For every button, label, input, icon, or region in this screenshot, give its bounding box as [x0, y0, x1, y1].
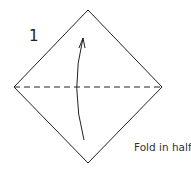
step-instruction: Fold in half.: [134, 142, 191, 153]
origami-diagram: 1 Fold in half.: [0, 0, 191, 170]
fold-arrow-icon: [77, 38, 84, 140]
step-number: 1: [29, 29, 39, 44]
